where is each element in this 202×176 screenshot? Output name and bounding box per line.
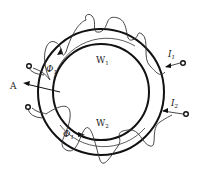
toroid-core	[38, 29, 164, 155]
terminal-right-top	[181, 61, 186, 66]
label-w1: W1	[96, 55, 109, 66]
a-arrow-head-icon	[23, 81, 30, 86]
terminal-left-bottom	[26, 105, 31, 110]
label-i1: I1	[167, 49, 175, 60]
toroid-diagram: A Φ1 W1 I1 I2 W2 Φ1	[0, 0, 202, 176]
current-arrow-i1-icon	[165, 63, 171, 68]
label-i2: I2	[170, 98, 179, 109]
label-phi1-top: Φ1	[46, 64, 57, 75]
terminal-left-top	[27, 64, 32, 69]
flux-arrows	[57, 48, 85, 137]
label-a: A	[9, 81, 17, 91]
label-w2: W2	[96, 118, 109, 129]
core-outer-edge	[38, 29, 164, 155]
a-arrow-line	[26, 84, 60, 92]
terminal-right-bottom	[184, 112, 189, 117]
current-arrow-i2-icon	[162, 108, 168, 113]
